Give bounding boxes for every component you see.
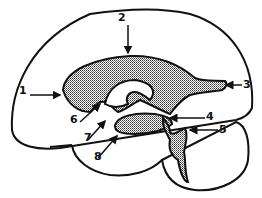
temporal-lobe-outline [72, 145, 162, 175]
label-8: 8 [94, 151, 102, 162]
label-1: 1 [19, 85, 27, 96]
label-4: 4 [206, 111, 214, 122]
label-3: 3 [243, 79, 251, 90]
label-2: 2 [118, 12, 126, 23]
label-5: 5 [219, 124, 227, 135]
label-7: 7 [84, 132, 92, 143]
brain-ventricle-diagram [0, 0, 262, 198]
label-6: 6 [70, 114, 78, 125]
